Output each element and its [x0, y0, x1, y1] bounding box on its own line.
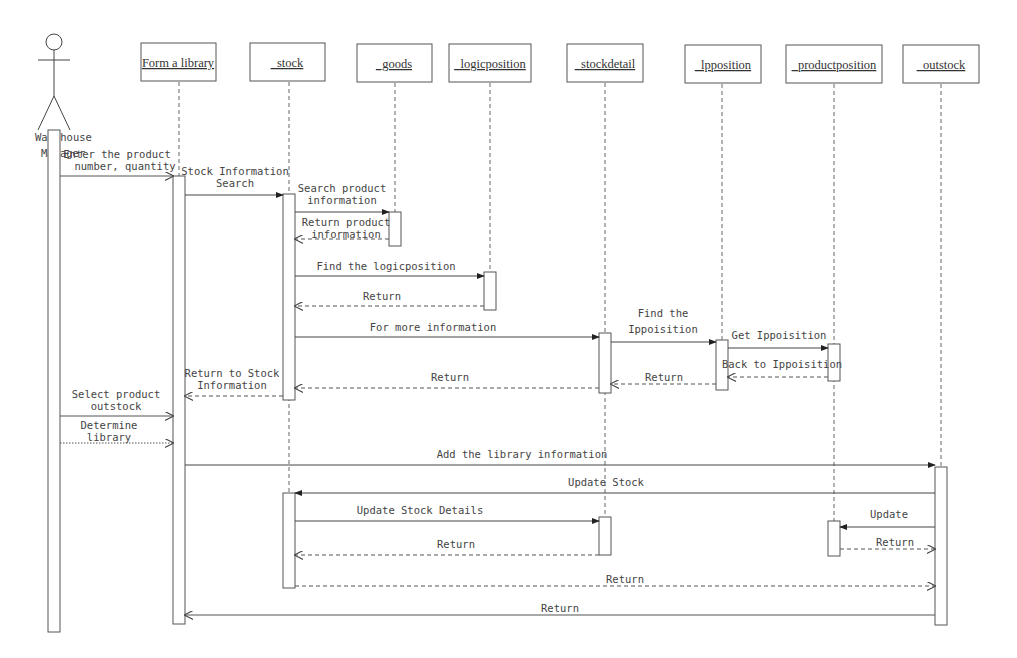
- message-17: Update Stock: [295, 476, 935, 493]
- svg-text:Ippoisition: Ippoisition: [628, 323, 698, 335]
- object-form-a-library: Form a library: [141, 43, 216, 81]
- object-productposition: _productposition: [786, 45, 882, 83]
- svg-text:Update Stock Details: Update Stock Details: [357, 504, 483, 516]
- message-18: Update Stock Details: [295, 504, 599, 521]
- message-9: Get Ippoisition: [728, 329, 828, 348]
- activation-stock-2: [283, 493, 295, 588]
- svg-text:Stock Information: Stock Information: [181, 165, 288, 177]
- svg-text:_stock: _stock: [270, 56, 304, 70]
- message-6: Return: [295, 290, 484, 306]
- message-23: Return: [185, 602, 935, 615]
- message-5: Find the logicposition: [295, 260, 484, 276]
- message-7: For more information: [295, 321, 599, 337]
- svg-text:Add the library information: Add the library information: [437, 448, 608, 460]
- actor-warehouse-manager: Warehouse Manager: [35, 34, 92, 632]
- message-13: Return to Stock Information: [185, 367, 283, 396]
- svg-text:Return: Return: [876, 536, 914, 548]
- svg-text:Update Stock: Update Stock: [568, 476, 645, 488]
- svg-text:Return: Return: [606, 573, 644, 585]
- message-14: Select product outstock: [60, 388, 173, 416]
- activation-form-a-library: [173, 176, 185, 624]
- svg-text:_outstock: _outstock: [916, 58, 966, 72]
- message-4: Return product information: [295, 216, 390, 240]
- actor-activation-bar: [48, 130, 60, 632]
- svg-text:Information: Information: [197, 379, 267, 391]
- svg-text:information: information: [307, 194, 377, 206]
- activation-bars: [173, 176, 947, 625]
- object-goods: _goods: [357, 44, 432, 82]
- svg-text:Get Ippoisition: Get Ippoisition: [732, 329, 827, 341]
- svg-text:Search product: Search product: [298, 182, 387, 194]
- activation-stockdetail-2: [599, 517, 611, 555]
- svg-text:Return product: Return product: [302, 216, 391, 228]
- actor-head-icon: [46, 34, 62, 50]
- object-logicposition: _logicposition: [449, 44, 531, 82]
- message-1: Enter the product number, quantity: [60, 148, 176, 176]
- svg-text:Return: Return: [363, 290, 401, 302]
- svg-text:information: information: [311, 228, 381, 240]
- svg-text:Update: Update: [870, 508, 908, 520]
- activation-goods: [389, 212, 401, 246]
- svg-text:outstock: outstock: [91, 400, 142, 412]
- message-22: Return: [295, 573, 935, 586]
- activation-stock-1: [283, 194, 295, 400]
- svg-text:Return to Stock: Return to Stock: [185, 367, 281, 379]
- message-16: Add the library information: [185, 448, 935, 465]
- actor-label-line1: Warehouse: [35, 131, 92, 143]
- message-15: Determine library: [60, 419, 173, 443]
- message-8: Find the Ippoisition: [611, 307, 716, 342]
- svg-text:library: library: [87, 431, 131, 443]
- svg-text:Determine: Determine: [81, 419, 138, 431]
- message-12: Return: [295, 371, 599, 388]
- svg-text:Form a library: Form a library: [142, 56, 215, 70]
- activation-outstock: [935, 467, 947, 625]
- activation-stockdetail-1: [599, 333, 611, 393]
- svg-text:For more information: For more information: [370, 321, 496, 333]
- message-19: Return: [295, 538, 599, 555]
- message-11: Return: [611, 371, 716, 384]
- activation-productposition-2: [828, 521, 840, 556]
- object-stockdetail: _stockdetail: [567, 44, 643, 82]
- message-20: Update: [840, 508, 935, 527]
- sequence-diagram: Warehouse Manager Form a library _stock …: [0, 0, 1017, 658]
- svg-text:Enter the product: Enter the product: [63, 148, 170, 160]
- activation-logicposition: [484, 272, 496, 310]
- svg-text:Select product: Select product: [72, 388, 161, 400]
- svg-text:Return: Return: [541, 602, 579, 614]
- svg-text:_logicposition: _logicposition: [453, 57, 526, 71]
- object-outstock: _outstock: [903, 45, 979, 83]
- object-stock: _stock: [250, 43, 325, 81]
- svg-text:Back to Ippoisition: Back to Ippoisition: [722, 358, 842, 370]
- message-21: Return: [840, 536, 935, 549]
- svg-text:_goods: _goods: [375, 57, 412, 71]
- svg-text:Return: Return: [437, 538, 475, 550]
- svg-text:Return: Return: [431, 371, 469, 383]
- svg-text:Return: Return: [645, 371, 683, 383]
- svg-text:_productposition: _productposition: [791, 58, 877, 72]
- message-2: Stock Information Search: [181, 165, 288, 195]
- svg-text:Search: Search: [216, 177, 254, 189]
- svg-text:_lpposition: _lpposition: [694, 58, 752, 72]
- message-10: Back to Ippoisition: [722, 358, 842, 377]
- message-3: Search product information: [295, 182, 389, 212]
- svg-text:Find the logicposition: Find the logicposition: [316, 260, 455, 272]
- svg-text:Find the: Find the: [638, 307, 689, 319]
- svg-text:number, quantity: number, quantity: [74, 160, 175, 172]
- svg-text:_stockdetail: _stockdetail: [574, 57, 636, 71]
- object-lpposition: _lpposition: [685, 45, 761, 83]
